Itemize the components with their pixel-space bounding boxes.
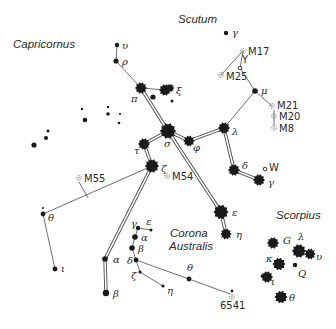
star-theta-cra: θ: [187, 262, 193, 281]
star-label: φ: [193, 142, 200, 153]
dso-M55: M55: [76, 173, 105, 184]
star-label: κ: [265, 253, 273, 264]
star-theta-sco: θ: [274, 291, 295, 304]
star-label: α: [141, 232, 148, 243]
star-label: μ: [261, 85, 268, 96]
star-iota2-sco: [261, 275, 264, 278]
dso-M54: M54: [164, 171, 193, 182]
sagittarius-star-chart: M17M25M21M20M8M55M546541 υρπξγμσφλτζδγεη…: [0, 0, 336, 329]
field-star: [118, 122, 121, 125]
field-star: [81, 108, 83, 110]
star-label: γ: [131, 218, 137, 229]
star-kappa-sco: κ: [265, 253, 286, 270]
star-label: λ: [231, 126, 238, 137]
star-label: ρ: [121, 56, 128, 67]
star-xi-sgr: ξ: [165, 84, 182, 96]
variable-label: W: [269, 162, 279, 173]
variable-label: Y: [241, 54, 249, 65]
star-label: θ: [187, 262, 193, 273]
dso-label: M55: [84, 173, 105, 184]
star-rho-sgr: ρ: [113, 56, 128, 67]
star-g-sco: G: [267, 235, 291, 249]
field-star: [119, 113, 121, 115]
star-gamma-sgr: γ: [253, 174, 274, 188]
star-theta-cap: θ: [41, 212, 54, 223]
field-star: [31, 142, 36, 147]
dso-M20: M20: [271, 111, 300, 122]
star-eta-cra: η: [161, 284, 173, 296]
star-gamma-cra: γ: [131, 218, 140, 230]
star-label: ε: [146, 216, 151, 227]
dso-label: M17: [248, 46, 269, 57]
constellation-name: Scutum: [178, 13, 217, 25]
star-label: θ: [289, 292, 295, 303]
star-label: ζ: [131, 270, 137, 281]
star-label: ι: [61, 263, 65, 274]
star-label: Q: [298, 268, 306, 279]
field-star: [106, 112, 110, 116]
star-theta2-cap: [42, 207, 44, 209]
star-label: β: [137, 243, 144, 254]
star-lambda-sco: λ: [292, 231, 306, 258]
star-label: G: [283, 235, 291, 246]
star-label: α: [113, 254, 120, 265]
constellation-name: Scorpius: [276, 209, 321, 221]
star-delta-cra: δ: [127, 255, 138, 266]
star-label: δ: [127, 255, 133, 266]
star-label: η: [236, 229, 242, 240]
star-label: β: [112, 288, 119, 299]
star-xi2-sgr: [171, 100, 174, 103]
star-star-153-97: [150, 94, 155, 99]
star-label: θ: [48, 212, 54, 223]
star-upsilon-sco: υ: [304, 248, 322, 262]
star-gamma-sct: γ: [224, 27, 238, 38]
dso-NGC6541: 6541: [220, 294, 245, 311]
constellation-name: Corona: [170, 227, 208, 239]
dso-M8: M8: [271, 123, 294, 134]
field-star: [44, 136, 48, 140]
star-label: τ: [134, 145, 140, 156]
star-lambda-sgr: λ: [218, 122, 238, 137]
dso-label: M8: [279, 123, 294, 134]
star-label: λ: [297, 231, 304, 242]
star-label: ι: [271, 276, 275, 287]
star-label: γ: [232, 27, 238, 38]
star-label: γ: [268, 177, 274, 188]
field-star: [107, 106, 109, 108]
dso-label: M20: [279, 111, 300, 122]
star-beta-cra: β: [129, 243, 144, 254]
dso-label: M25: [226, 71, 247, 82]
star-sigma-sgr: σ: [160, 123, 176, 149]
dso-label: M21: [277, 100, 298, 111]
star-label: σ: [164, 138, 172, 149]
dso-M21: M21: [269, 100, 298, 111]
star-label: ε: [232, 207, 237, 218]
dso-label: 6541: [220, 300, 245, 311]
field-star: [83, 118, 88, 123]
star-zeta-cra: ζ: [131, 270, 142, 281]
constellation-name: Capricornus: [13, 38, 75, 50]
star-label: π: [130, 93, 138, 104]
constellation-name: Australis: [168, 240, 213, 252]
variable-Y-sgr: Y: [238, 54, 249, 70]
field-stars: [31, 106, 121, 148]
star-iota-sco: ι: [261, 271, 275, 287]
star-label: δ: [242, 160, 248, 171]
dso-label: M54: [172, 171, 193, 182]
star-alpha-cra: α: [132, 232, 148, 243]
star-label: ζ: [161, 163, 167, 174]
star-label: υ: [316, 251, 322, 262]
field-star: [47, 130, 50, 133]
star-mu-sgr: μ: [252, 85, 267, 96]
star-label: ξ: [176, 85, 182, 96]
star-ngc6541-star: [231, 290, 234, 293]
star-label: υ: [122, 40, 128, 51]
star-label: η: [167, 285, 173, 296]
named-stars: υρπξγμσφλτζδγεηαβθιγεαβδζηθGλυκQιθ: [41, 27, 322, 303]
variable-W-sgr: W: [263, 162, 279, 173]
star-q-sco: Q: [293, 263, 306, 279]
